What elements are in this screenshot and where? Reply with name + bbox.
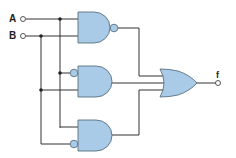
gate-3-input-bubble (70, 140, 78, 148)
terminal-f-icon (216, 81, 221, 86)
gate-1-nand-icon (78, 12, 110, 43)
output-f-label: f (216, 70, 219, 80)
wire-g3-out (112, 90, 164, 135)
input-b-label: B (9, 31, 16, 41)
gate-2-and-icon (78, 66, 112, 97)
junction-dot (58, 17, 62, 21)
wire-g1-out (118, 28, 164, 76)
junction-dot (39, 88, 43, 92)
gate-2-input-bubble (70, 69, 78, 77)
gate-1-output-bubble (110, 24, 118, 32)
gate-4-or-icon (160, 69, 197, 97)
input-a-label: A (9, 14, 16, 24)
gate-3-and-icon (78, 120, 112, 151)
junction-dot (58, 71, 62, 75)
terminal-a-icon (21, 17, 26, 22)
logic-circuit-diagram (0, 0, 236, 158)
junction-dot (39, 34, 43, 38)
terminal-b-icon (21, 34, 26, 39)
